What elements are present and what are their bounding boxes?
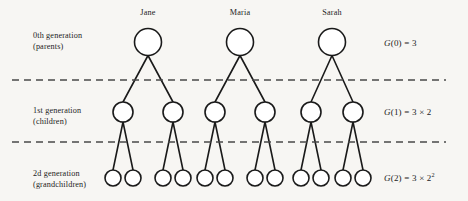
child-node — [343, 102, 363, 122]
child-node — [255, 102, 275, 122]
parent-node — [135, 29, 162, 56]
edge-child-grandchild — [311, 122, 321, 170]
family-name-label: Maria — [230, 8, 251, 17]
child-node — [205, 102, 225, 122]
edge-child-grandchild — [215, 122, 225, 170]
formula-function-name: G — [384, 107, 391, 117]
edge-child-grandchild — [301, 122, 311, 170]
formula-expression: 3 × 2 — [410, 107, 432, 117]
formula-generation-1: G(1) = 3 × 2 — [384, 107, 432, 117]
edge-parent-child — [311, 56, 332, 103]
edge-child-grandchild — [113, 122, 123, 170]
grandchild-node — [355, 170, 371, 186]
formula-argument: (1) — [391, 107, 405, 117]
nodes-layer — [105, 29, 371, 187]
formula-generation-2: G(2) = 3 × 22 — [384, 173, 435, 183]
formula-expression: 3 — [410, 38, 417, 48]
edge-parent-child — [123, 56, 148, 103]
formula-generation-0: G(0) = 3 — [384, 38, 417, 48]
family-name-label: Jane — [140, 8, 155, 17]
row-label-generation-0: 0th generation(parents) — [33, 30, 82, 52]
generational-tree-figure: JaneMariaSarah 0th generation(parents)1s… — [0, 0, 468, 201]
row-label-primary: 0th generation — [33, 31, 82, 40]
family-name-label: Sarah — [322, 8, 342, 17]
row-label-secondary: (grandchildren) — [33, 179, 86, 190]
grandchild-node — [267, 170, 283, 186]
grandchild-node — [197, 170, 213, 186]
edge-parent-child — [332, 56, 353, 103]
grandchild-node — [175, 170, 191, 186]
grandchild-node — [125, 170, 141, 186]
edge-parent-child — [148, 56, 173, 103]
row-label-secondary: (children) — [33, 116, 81, 127]
child-node — [113, 102, 133, 122]
edge-child-grandchild — [265, 122, 275, 170]
edges-layer — [113, 56, 363, 171]
edge-child-grandchild — [343, 122, 353, 170]
row-label-generation-2: 2d generation(grandchildren) — [33, 168, 86, 190]
edge-parent-child — [215, 56, 240, 103]
parent-node — [227, 29, 254, 56]
edge-child-grandchild — [353, 122, 363, 170]
edge-child-grandchild — [173, 122, 183, 170]
edge-parent-child — [240, 56, 265, 103]
formula-exponent: 2 — [432, 171, 435, 178]
grandchild-node — [105, 170, 121, 186]
row-label-primary: 2d generation — [33, 169, 80, 178]
child-node — [301, 102, 321, 122]
row-label-secondary: (parents) — [33, 41, 82, 52]
grandchild-node — [155, 170, 171, 186]
formula-function-name: G — [384, 38, 391, 48]
parent-node — [319, 29, 346, 56]
row-label-generation-1: 1st generation(children) — [33, 105, 81, 127]
formula-expression: 3 × 2 — [410, 173, 432, 183]
formula-function-name: G — [384, 173, 391, 183]
formula-argument: (2) — [391, 173, 405, 183]
grandchild-node — [247, 170, 263, 186]
edge-child-grandchild — [163, 122, 173, 170]
formula-argument: (0) — [391, 38, 405, 48]
edge-child-grandchild — [255, 122, 265, 170]
edge-child-grandchild — [123, 122, 133, 170]
grandchild-node — [217, 170, 233, 186]
grandchild-node — [313, 170, 329, 186]
grandchild-node — [335, 170, 351, 186]
row-label-primary: 1st generation — [33, 106, 81, 115]
child-node — [163, 102, 183, 122]
edge-child-grandchild — [205, 122, 215, 170]
grandchild-node — [293, 170, 309, 186]
